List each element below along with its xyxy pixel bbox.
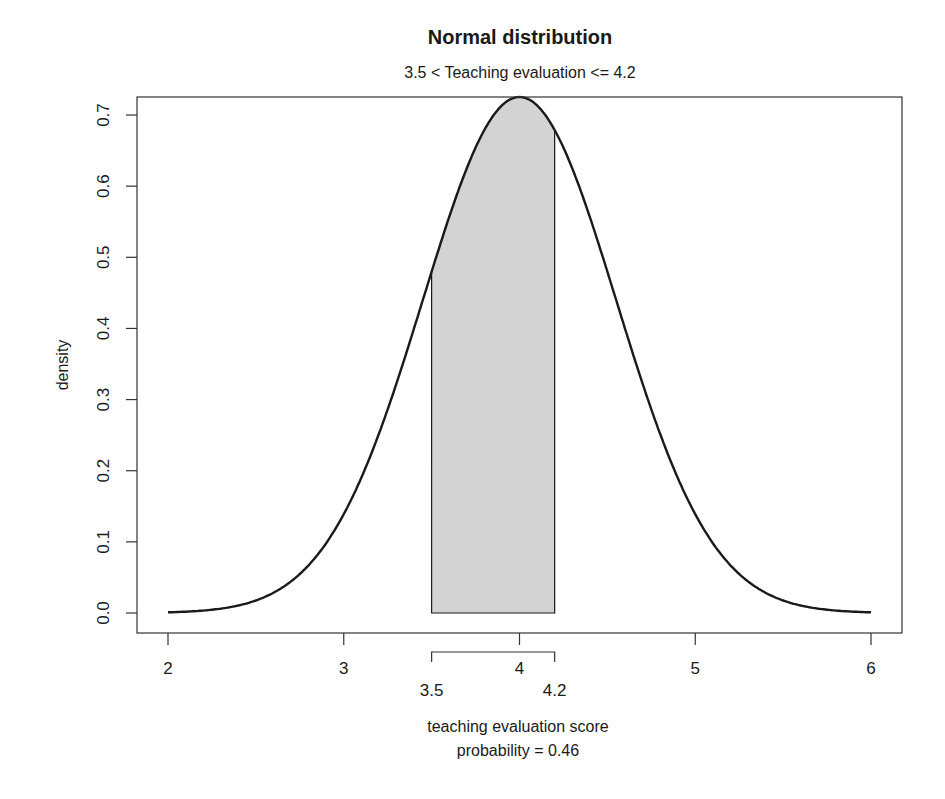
y-axis-label: density — [54, 340, 71, 391]
shaded-area — [432, 97, 555, 613]
x-axis-label: teaching evaluation score — [427, 718, 609, 735]
y-tick-label: 0.6 — [94, 174, 113, 198]
y-tick-label: 0.0 — [94, 601, 113, 625]
x-axis: 23456 — [163, 633, 875, 678]
y-tick-label: 0.7 — [94, 103, 113, 127]
region-bracket: 3.54.2 — [420, 652, 567, 700]
x-tick-label: 6 — [866, 659, 875, 678]
x-tick-label: 5 — [691, 659, 700, 678]
y-tick-label: 0.3 — [94, 388, 113, 412]
y-tick-label: 0.5 — [94, 245, 113, 269]
y-axis: 0.00.10.20.30.40.50.60.7 — [94, 103, 137, 625]
bracket-line — [432, 652, 555, 662]
region-lower-label: 3.5 — [420, 681, 444, 700]
x-tick-label: 3 — [339, 659, 348, 678]
y-tick-label: 0.4 — [94, 317, 113, 341]
y-tick-label: 0.2 — [94, 459, 113, 483]
probability-label: probability = 0.46 — [457, 742, 579, 759]
x-tick-label: 4 — [515, 659, 524, 678]
region-upper-label: 4.2 — [543, 681, 567, 700]
x-tick-label: 2 — [163, 659, 172, 678]
shaded-probability-region — [432, 97, 555, 613]
chart-svg: 0.00.10.20.30.40.50.60.7 23456 3.54.2 de… — [0, 0, 945, 799]
y-tick-label: 0.1 — [94, 530, 113, 554]
